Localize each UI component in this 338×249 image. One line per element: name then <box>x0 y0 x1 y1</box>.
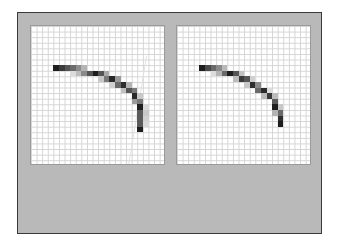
arc-pixel <box>143 121 149 127</box>
diagram-frame <box>17 12 322 234</box>
arc-pixel <box>278 121 284 127</box>
pixel-grid-right <box>176 25 311 165</box>
pixel-grid-left <box>30 25 165 165</box>
arc-pixel <box>137 127 143 133</box>
